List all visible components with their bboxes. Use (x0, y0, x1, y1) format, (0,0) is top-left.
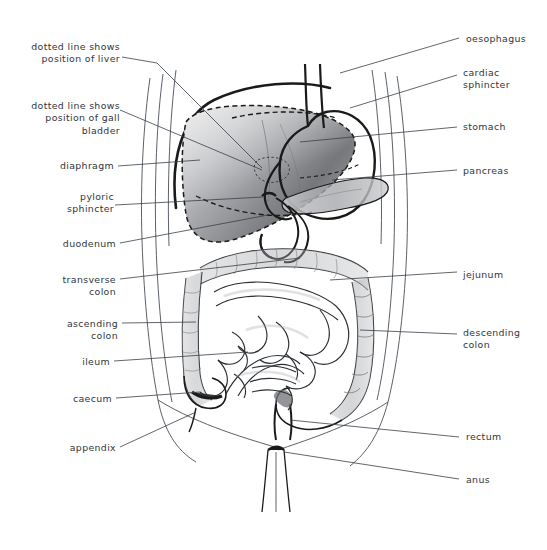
label-duodenum: duodenum (63, 238, 116, 250)
label-liver-dotted: dotted line shows position of liver (31, 41, 120, 66)
label-appendix: appendix (70, 442, 116, 454)
label-transverse-colon: transverse colon (63, 274, 116, 299)
label-gallbladder-dotted: dotted line shows position of gall bladd… (31, 100, 120, 137)
label-anus: anus (466, 474, 490, 486)
leader-anus (284, 452, 459, 479)
leader-pancreas (332, 170, 457, 180)
descending-colon (330, 278, 374, 420)
anus (262, 447, 290, 512)
leader-ileum (114, 352, 248, 361)
label-pyloric-sphincter: pyloric sphincter (67, 191, 114, 216)
leader-descending-colon (360, 330, 457, 334)
label-stomach: stomach (463, 121, 506, 133)
label-oesophagus: oesophagus (466, 33, 526, 45)
label-pancreas: pancreas (463, 165, 509, 177)
label-ileum: ileum (82, 356, 110, 368)
leader-oesophagus (340, 38, 459, 73)
label-caecum: caecum (73, 393, 112, 405)
label-descending-colon: descending colon (463, 327, 520, 352)
appendix (189, 408, 196, 432)
label-jejunum: jejunum (463, 269, 503, 281)
label-diaphragm: diaphragm (60, 160, 114, 172)
leader-appendix (120, 412, 196, 447)
leader-cardiac-sphincter (350, 75, 457, 108)
ascending-colon (182, 272, 212, 406)
transverse-colon (200, 249, 368, 290)
diagram-canvas: dotted line shows position of liver dott… (0, 0, 547, 550)
jejunum (200, 282, 349, 410)
label-ascending-colon: ascending colon (67, 318, 118, 343)
label-rectum: rectum (466, 431, 501, 443)
label-cardiac-sphincter: cardiac sphincter (463, 67, 510, 92)
